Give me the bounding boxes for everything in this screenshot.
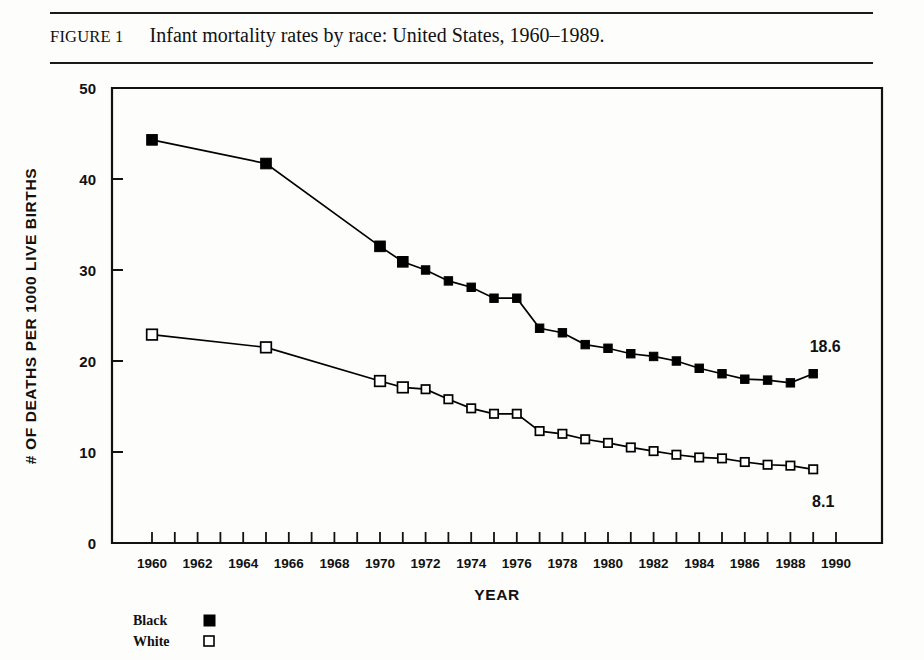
- x-tick-label: 1968: [319, 556, 350, 571]
- x-tick-label: 1974: [456, 556, 487, 571]
- y-axis-tick-labels: 01020304050: [79, 80, 96, 552]
- end-value-label-white: 8.1: [812, 493, 834, 510]
- x-axis-ticks: [152, 532, 836, 543]
- figure-container: FIGURE 1 Infant mortality rates by race:…: [0, 0, 924, 660]
- legend-marker-open-square: [204, 636, 214, 646]
- data-point-black: [581, 340, 589, 348]
- data-point-black: [398, 257, 409, 268]
- x-tick-label: 1964: [228, 556, 259, 571]
- x-tick-label: 1978: [547, 556, 578, 571]
- data-point-black: [490, 294, 498, 302]
- data-point-white: [398, 382, 409, 393]
- x-tick-label: 1984: [684, 556, 715, 571]
- data-point-black: [763, 376, 771, 384]
- y-tick-label: 40: [79, 171, 96, 188]
- chart-legend: Black White: [133, 613, 215, 649]
- data-point-white: [490, 410, 498, 418]
- data-point-white: [695, 453, 703, 461]
- data-point-black: [375, 241, 386, 252]
- data-point-white: [763, 461, 771, 469]
- series-line-white: [147, 329, 818, 473]
- data-point-black: [741, 375, 749, 383]
- x-tick-label: 1960: [137, 556, 167, 571]
- data-point-black: [467, 283, 475, 291]
- data-point-white: [649, 447, 657, 455]
- legend-label-white: White: [133, 634, 170, 649]
- series-line-black: [147, 135, 818, 387]
- data-point-black: [649, 352, 657, 360]
- data-point-white: [421, 385, 429, 393]
- x-tick-label: 1962: [183, 556, 213, 571]
- data-point-white: [718, 454, 726, 462]
- data-point-black: [513, 294, 521, 302]
- x-tick-label: 1982: [639, 556, 669, 571]
- y-axis-title: # OF DEATHS PER 1000 LIVE BIRTHS: [22, 168, 39, 464]
- data-point-white: [147, 329, 158, 340]
- x-axis-title: YEAR: [474, 586, 519, 603]
- data-point-white: [809, 465, 817, 473]
- x-tick-label: 1986: [730, 556, 761, 571]
- data-point-black: [421, 266, 429, 274]
- data-point-white: [375, 376, 386, 387]
- data-point-white: [741, 458, 749, 466]
- data-point-white: [558, 430, 566, 438]
- data-point-black: [558, 329, 566, 337]
- y-tick-label: 50: [79, 80, 96, 97]
- data-point-black: [535, 324, 543, 332]
- infant-mortality-line-chart: 01020304050 1960196219641966196819701972…: [0, 0, 924, 660]
- x-tick-label: 1970: [365, 556, 395, 571]
- data-point-white: [535, 427, 543, 435]
- data-point-white: [513, 410, 521, 418]
- data-point-black: [627, 350, 635, 358]
- y-tick-label: 0: [88, 535, 96, 552]
- end-value-label-black: 18.6: [810, 338, 841, 355]
- legend-label-black: Black: [133, 613, 167, 628]
- data-point-white: [261, 342, 272, 353]
- y-axis-ticks: [112, 179, 123, 543]
- data-point-black: [718, 370, 726, 378]
- data-point-white: [627, 443, 635, 451]
- legend-marker-filled-square: [204, 615, 215, 626]
- y-tick-label: 30: [79, 262, 96, 279]
- x-tick-label: 1988: [775, 556, 806, 571]
- data-point-black: [695, 364, 703, 372]
- y-tick-label: 20: [79, 353, 96, 370]
- data-point-black: [672, 357, 680, 365]
- data-point-black: [147, 135, 158, 146]
- y-tick-label: 10: [79, 444, 96, 461]
- data-point-black: [786, 379, 794, 387]
- data-point-white: [672, 451, 680, 459]
- data-point-white: [604, 439, 612, 447]
- data-point-black: [444, 277, 452, 285]
- x-tick-label: 1966: [274, 556, 305, 571]
- data-point-white: [786, 461, 794, 469]
- chart-area: 01020304050 1960196219641966196819701972…: [0, 0, 924, 660]
- data-point-white: [467, 404, 475, 412]
- data-point-white: [581, 435, 589, 443]
- data-point-black: [809, 370, 817, 378]
- x-tick-label: 1972: [411, 556, 441, 571]
- x-tick-label: 1980: [593, 556, 623, 571]
- x-tick-label: 1990: [821, 556, 851, 571]
- data-point-black: [261, 158, 272, 169]
- x-axis-tick-labels: 1960196219641966196819701972197419761978…: [137, 556, 851, 571]
- data-point-white: [444, 395, 452, 403]
- data-point-black: [604, 344, 612, 352]
- x-tick-label: 1976: [502, 556, 533, 571]
